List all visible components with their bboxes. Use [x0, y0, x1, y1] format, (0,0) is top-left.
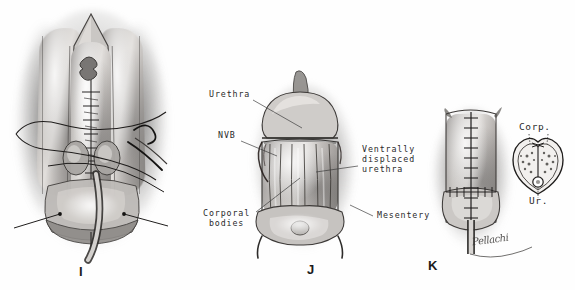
inset-label-corpora: Corp.	[519, 122, 551, 132]
cross-section-inset: Corp. Ur.	[505, 122, 575, 212]
label-corporal-bodies: Corporal bodies	[203, 208, 250, 228]
panel-letter-k: K	[428, 258, 438, 273]
label-ventrally-displaced-urethra: Ventrally displaced urethra	[362, 144, 415, 174]
signature-flourish	[468, 244, 538, 262]
label-urethra: Urethra	[209, 89, 250, 99]
inset-label-urethra: Ur.	[529, 196, 548, 206]
figure-canvas: I	[0, 0, 575, 290]
panel-letter-j: J	[307, 262, 315, 277]
label-mesentery: Mesentery	[377, 210, 430, 220]
label-nvb: NVB	[218, 130, 236, 140]
